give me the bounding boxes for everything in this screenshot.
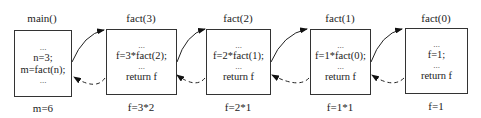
return-arrow <box>177 75 205 83</box>
frame-result-main: m=6 <box>3 102 83 114</box>
frame-result-fact0: f=1 <box>396 100 476 112</box>
frame-box-fact2: ... f=2*fact(1); ... return f <box>206 29 271 95</box>
frame-result-fact3: f=3*2 <box>101 101 181 113</box>
code-line: ... <box>138 41 145 50</box>
code-line: ... <box>40 43 47 52</box>
code-line: return f <box>223 71 254 83</box>
code-line: n=3; <box>33 52 52 64</box>
code-line: ... <box>337 41 344 50</box>
code-line: return f <box>325 71 356 83</box>
code-line: ... <box>433 40 440 49</box>
frame-title-fact0: fact(0) <box>396 12 476 24</box>
return-arrow <box>372 75 404 83</box>
code-line: ... <box>337 62 344 71</box>
frame-box-fact3: ... f=3*fact(2); ... return f <box>106 29 177 95</box>
call-arrow <box>271 29 307 62</box>
return-arrow <box>74 77 105 84</box>
code-line: ... <box>40 76 47 85</box>
code-line: ... <box>235 41 242 50</box>
code-line: return f <box>421 70 452 82</box>
frame-box-fact0: ... f=1; ... return f <box>405 28 468 94</box>
frame-result-fact2: f=2*1 <box>198 101 278 113</box>
call-arrow <box>371 29 402 62</box>
code-line: return f <box>126 71 157 83</box>
frame-result-fact1: f=1*1 <box>300 101 380 113</box>
frame-title-fact3: fact(3) <box>101 12 181 24</box>
frame-title-fact1: fact(1) <box>300 12 380 24</box>
call-arrow <box>177 29 205 62</box>
code-line: ... <box>433 61 440 70</box>
code-line: m=fact(n); <box>21 64 66 76</box>
code-line: ... <box>235 62 242 71</box>
frame-title-fact2: fact(2) <box>198 12 278 24</box>
code-line: ... <box>138 62 145 71</box>
frame-title-main: main() <box>2 12 82 24</box>
frame-box-main: ... n=3; m=fact(n); ... <box>14 30 72 97</box>
return-arrow <box>272 75 309 83</box>
call-arrow <box>72 30 104 62</box>
frame-box-fact1: ... f=1*fact(0); ... return f <box>310 29 371 95</box>
